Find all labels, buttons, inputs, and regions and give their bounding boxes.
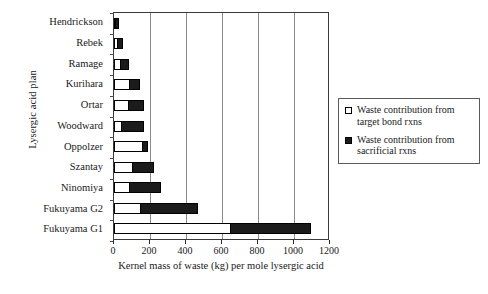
x-axis-tick-label: 0 — [111, 245, 116, 256]
bar-segment-sacrificial — [121, 121, 144, 132]
legend-entry: Waste contribution fromsacrificial rxns — [345, 134, 473, 158]
x-axis-tick — [293, 240, 294, 244]
bar-row — [114, 177, 328, 198]
x-axis-title: Kernel mass of waste (kg) per mole lyser… — [113, 260, 329, 271]
x-axis-tick-label: 1200 — [319, 245, 339, 256]
stacked-bar — [114, 100, 144, 111]
stacked-bar — [114, 38, 123, 49]
stacked-bar — [114, 162, 154, 173]
y-axis-tick-label: Ramage — [18, 53, 108, 74]
legend-label-line: Waste contribution from — [357, 104, 455, 116]
bar-row — [114, 218, 328, 239]
stacked-bar — [114, 18, 119, 29]
bar-segment-target-bond — [114, 223, 231, 234]
bar-row — [114, 157, 328, 178]
bar-segment-target-bond — [114, 141, 143, 152]
x-axis-tick — [221, 240, 222, 244]
y-axis-tick-label: Ortar — [18, 95, 108, 116]
y-axis-tick-label: Oppolzer — [18, 136, 108, 157]
chart-legend: Waste contribution fromtarget bond rxnsW… — [338, 98, 480, 164]
x-axis-tick-label: 600 — [214, 245, 229, 256]
bar-segment-sacrificial — [117, 38, 123, 49]
bar-segment-target-bond — [114, 100, 129, 111]
bar-rows — [114, 13, 328, 239]
chart-figure: Lysergic acid plan HendricksonRebekRamag… — [0, 0, 488, 294]
y-axis-tick-label: Woodward — [18, 116, 108, 137]
bar-row — [114, 198, 328, 219]
legend-swatch-target-bond-icon — [345, 107, 352, 114]
bar-row — [114, 95, 328, 116]
stacked-bar — [114, 141, 148, 152]
y-axis-tick-label: Hendrickson — [18, 12, 108, 33]
stacked-bar — [114, 121, 144, 132]
plot-area — [113, 12, 329, 240]
stacked-bar — [114, 59, 129, 70]
stacked-bar — [114, 223, 311, 234]
y-axis-tick-label: Kurihara — [18, 74, 108, 95]
bar-segment-target-bond — [114, 182, 130, 193]
bar-segment-sacrificial — [129, 182, 161, 193]
y-axis-tick-label: Ninomiya — [18, 178, 108, 199]
x-axis-tick — [329, 240, 330, 244]
y-axis-tick-label: Fukuyama G2 — [18, 199, 108, 220]
legend-label: Waste contribution fromtarget bond rxns — [357, 104, 455, 128]
bar-row — [114, 54, 328, 75]
x-axis-tick — [185, 240, 186, 244]
x-axis-tick-label: 800 — [250, 245, 265, 256]
legend-label-line: Waste contribution from — [357, 134, 455, 146]
bar-segment-sacrificial — [230, 223, 311, 234]
bar-segment-sacrificial — [115, 18, 119, 29]
y-axis-tick-labels: HendricksonRebekRamageKuriharaOrtarWoodw… — [18, 12, 108, 240]
bar-row — [114, 116, 328, 137]
x-axis-tick — [257, 240, 258, 244]
legend-swatch-sacrificial-icon — [345, 137, 352, 144]
x-axis-tick — [113, 240, 114, 244]
legend-label: Waste contribution fromsacrificial rxns — [357, 134, 455, 158]
bar-segment-sacrificial — [142, 141, 148, 152]
bar-segment-sacrificial — [129, 79, 140, 90]
bar-segment-sacrificial — [120, 59, 129, 70]
bar-row — [114, 34, 328, 55]
bar-segment-sacrificial — [132, 162, 155, 173]
bar-segment-sacrificial — [128, 100, 143, 111]
stacked-bar — [114, 182, 161, 193]
bar-segment-target-bond — [114, 79, 130, 90]
y-axis-tick-label: Szantay — [18, 157, 108, 178]
x-axis-tick-label: 1000 — [283, 245, 303, 256]
bar-row — [114, 13, 328, 34]
bar-segment-target-bond — [114, 203, 141, 214]
x-axis-tick-label: 200 — [142, 245, 157, 256]
x-axis-tick-label: 400 — [178, 245, 193, 256]
y-axis-tick-label: Rebek — [18, 33, 108, 54]
stacked-bar — [114, 203, 198, 214]
x-axis-tick — [149, 240, 150, 244]
bar-row — [114, 136, 328, 157]
legend-entry: Waste contribution fromtarget bond rxns — [345, 104, 473, 128]
y-axis-tick-label: Fukuyama G1 — [18, 219, 108, 240]
legend-label-line: sacrificial rxns — [357, 145, 455, 157]
bar-row — [114, 75, 328, 96]
stacked-bar — [114, 79, 140, 90]
bar-segment-target-bond — [114, 162, 133, 173]
bar-segment-sacrificial — [140, 203, 198, 214]
legend-label-line: target bond rxns — [357, 116, 455, 128]
x-axis-ticks: 020040060080010001200 — [113, 240, 329, 260]
